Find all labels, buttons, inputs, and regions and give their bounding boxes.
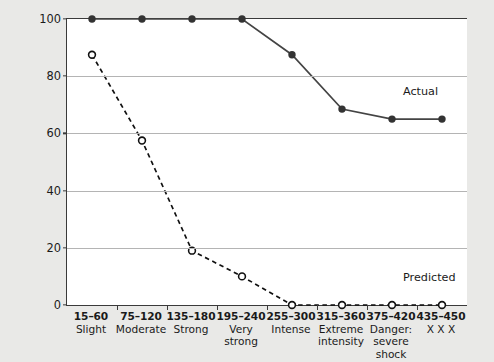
data-point-actual xyxy=(188,15,195,22)
y-tick-mark xyxy=(63,18,67,19)
plot-area: 020406080100 xyxy=(66,18,467,306)
y-tick-label: 40 xyxy=(15,184,61,198)
data-point-predicted xyxy=(439,302,446,309)
gridline xyxy=(67,248,467,249)
gridline xyxy=(67,133,467,134)
series-annotation-actual: Actual xyxy=(403,85,438,98)
data-point-actual xyxy=(138,15,145,22)
data-point-actual xyxy=(88,15,95,22)
data-point-actual xyxy=(238,15,245,22)
data-point-predicted xyxy=(289,302,296,309)
data-point-predicted xyxy=(389,302,396,309)
data-point-actual xyxy=(388,115,395,122)
series-annotation-predicted: Predicted xyxy=(403,271,456,284)
y-tick-label: 20 xyxy=(15,241,61,255)
gridline xyxy=(67,191,467,192)
data-point-predicted xyxy=(339,302,346,309)
data-point-predicted xyxy=(89,51,96,58)
x-category-description: X X X xyxy=(409,323,473,336)
series-layer xyxy=(67,19,467,305)
data-point-actual xyxy=(338,105,345,112)
y-tick-mark xyxy=(63,190,67,191)
y-tick-mark xyxy=(63,133,67,134)
series-line-actual xyxy=(92,19,442,119)
data-point-predicted xyxy=(239,273,246,280)
data-point-predicted xyxy=(139,137,146,144)
y-tick-label: 0 xyxy=(15,298,61,312)
y-tick-label: 100 xyxy=(15,12,61,26)
chart-figure: Percentage obeying experimenter at each … xyxy=(0,0,494,362)
x-category-label: 435–450X X X xyxy=(409,310,473,335)
data-point-actual xyxy=(438,115,445,122)
y-tick-mark xyxy=(63,304,67,305)
y-tick-label: 80 xyxy=(15,69,61,83)
y-tick-label: 60 xyxy=(15,126,61,140)
y-tick-mark xyxy=(63,247,67,248)
gridline xyxy=(67,76,467,77)
series-line-predicted xyxy=(92,55,442,305)
y-tick-mark xyxy=(63,76,67,77)
data-point-actual xyxy=(288,51,295,58)
x-category-range: 435–450 xyxy=(409,310,473,323)
